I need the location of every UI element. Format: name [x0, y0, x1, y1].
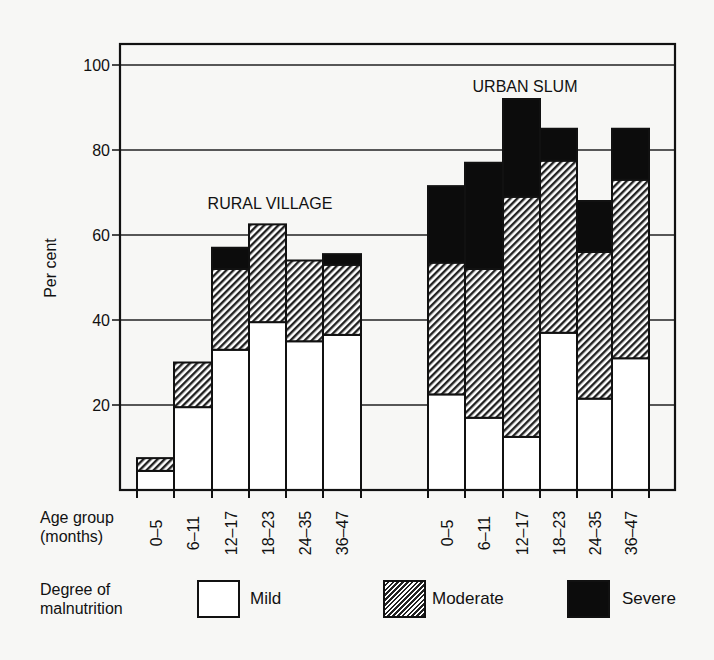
- x-axis-category-labels: 0–56–1112–1718–2324–3536–470–56–1112–171…: [148, 511, 640, 556]
- x-axis-label-line1: Age group: [40, 508, 114, 527]
- x-axis-label-line2: (months): [40, 527, 114, 546]
- x-category-label: 6–11: [185, 516, 202, 551]
- bar-segment-moderate: [540, 161, 577, 333]
- severe-swatch-icon: [567, 580, 610, 618]
- bar-segment-severe: [212, 248, 249, 269]
- bar-segment-severe: [323, 254, 361, 265]
- bar-segment-mild: [428, 394, 465, 490]
- legend-item-severe: Severe: [567, 580, 676, 618]
- bar-segment-moderate: [249, 224, 286, 322]
- x-category-label: 36–47: [334, 511, 351, 556]
- y-tick-label: 60: [92, 227, 110, 244]
- x-category-label: 12–17: [514, 511, 531, 556]
- bar-segment-mild: [174, 407, 212, 490]
- bar-segment-mild: [503, 437, 540, 490]
- bar-segment-moderate: [503, 197, 540, 437]
- x-category-label: 18–23: [260, 511, 277, 556]
- bars: [137, 99, 649, 490]
- rural-village-title: RURAL VILLAGE: [208, 195, 333, 212]
- bar-segment-mild: [612, 358, 649, 490]
- bar-segment-mild: [137, 471, 174, 490]
- bar-segment-moderate: [428, 263, 465, 395]
- bar-segment-mild: [323, 335, 361, 490]
- y-tick-label: 20: [92, 397, 110, 414]
- bar-segment-mild: [249, 322, 286, 490]
- bar-segment-mild: [577, 399, 612, 490]
- bar-segment-mild: [540, 333, 577, 490]
- y-tick-label: 40: [92, 312, 110, 329]
- legend-label-mild: Mild: [250, 589, 281, 609]
- legend-title-line2: malnutrition: [40, 599, 123, 618]
- urban-slum-title: URBAN SLUM: [473, 78, 578, 95]
- bar-segment-severe: [503, 99, 540, 197]
- malnutrition-chart: 20406080100 0–56–1112–1718–2324–3536–470…: [0, 0, 714, 660]
- bar-segment-moderate: [212, 269, 249, 350]
- x-category-label: 0–5: [439, 520, 456, 547]
- legend-label-moderate: Moderate: [432, 589, 504, 609]
- bar-segment-severe: [577, 201, 612, 252]
- bar-segment-mild: [465, 418, 503, 490]
- bar-segment-severe: [612, 129, 649, 180]
- bar-segment-severe: [465, 163, 503, 269]
- y-tick-label: 80: [92, 142, 110, 159]
- bar-segment-mild: [286, 341, 323, 490]
- x-category-label: 36–47: [623, 511, 640, 556]
- x-category-label: 0–5: [148, 520, 165, 547]
- legend-item-moderate: Moderate: [383, 580, 504, 618]
- bar-segment-severe: [540, 129, 577, 161]
- legend-title-line1: Degree of: [40, 580, 123, 599]
- bar-segment-moderate: [286, 261, 323, 342]
- bar-segment-moderate: [137, 458, 174, 471]
- x-category-label: 6–11: [476, 516, 493, 551]
- x-category-label: 18–23: [551, 511, 568, 556]
- y-tick-label: 100: [83, 57, 110, 74]
- x-category-label: 24–35: [587, 511, 604, 556]
- moderate-hatched-swatch-icon: [383, 580, 426, 618]
- bar-segment-moderate: [612, 180, 649, 359]
- mild-swatch-icon: [197, 580, 240, 618]
- legend-item-mild: Mild: [197, 580, 281, 618]
- bar-segment-moderate: [465, 269, 503, 418]
- y-axis-label: Per cent: [42, 238, 59, 298]
- bar-segment-mild: [212, 350, 249, 490]
- x-category-label: 12–17: [223, 511, 240, 556]
- x-category-label: 24–35: [297, 511, 314, 556]
- x-axis-label: Age group (months): [40, 508, 114, 546]
- y-axis-ticks: 20406080100: [83, 57, 120, 414]
- bar-segment-moderate: [577, 252, 612, 399]
- bar-segment-severe: [428, 186, 465, 263]
- bar-segment-moderate: [174, 363, 212, 408]
- legend-title: Degree of malnutrition: [40, 580, 123, 618]
- legend-label-severe: Severe: [622, 589, 676, 609]
- bar-segment-moderate: [323, 265, 361, 335]
